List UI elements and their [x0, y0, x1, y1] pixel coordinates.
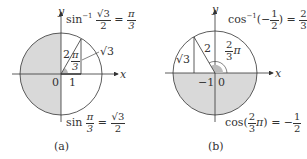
a-side-label: √3	[100, 46, 114, 57]
a-angle-label: π3	[71, 50, 80, 72]
b-caption: (b)	[208, 140, 224, 153]
a-y-axis-label: y	[58, 6, 64, 17]
a-bottom-equation: sin π3 = √32	[66, 112, 125, 134]
diagram-root: y x 0 1 2 √3 π3 sin−1 √32 = π3 sin π3 = …	[0, 0, 307, 159]
b-x-axis-label: x	[275, 68, 281, 79]
a-x-axis-label: x	[120, 69, 126, 80]
a-hypotenuse-label: 2	[63, 49, 70, 60]
a-top-equation: sin−1 √32 = π3	[66, 9, 136, 31]
b-angle-label: 23π	[225, 40, 241, 62]
b-side-label: √3	[176, 54, 190, 65]
a-tick-label: 1	[69, 77, 76, 88]
b-origin-label: 0	[218, 77, 225, 88]
b-bottom-equation: cos(23π) = −12	[225, 112, 301, 134]
a-caption: (a)	[54, 140, 69, 153]
a-origin-label: 0	[52, 77, 59, 88]
b-tick-label: −1	[198, 77, 214, 88]
b-top-equation: cos−1(−12) = 23π	[228, 9, 307, 31]
b-hypotenuse-label: 2	[204, 43, 211, 54]
b-y-axis-label: y	[212, 4, 218, 15]
